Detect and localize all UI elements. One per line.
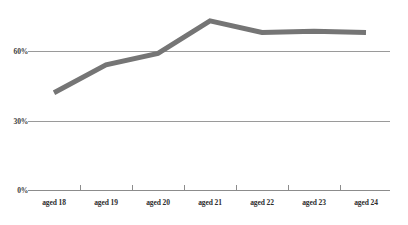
x-axis-tick-label-aged-22: aged 22 bbox=[236, 198, 288, 207]
y-axis-tick-label-30: 30% bbox=[4, 117, 28, 126]
line-chart: 60% 30% 0% aged 18 aged 19 aged 20 aged … bbox=[0, 0, 408, 225]
x-axis-tick-label-aged-23: aged 23 bbox=[288, 198, 340, 207]
gridlines bbox=[28, 51, 390, 121]
x-axis-tick-label-aged-21: aged 21 bbox=[184, 198, 236, 207]
x-axis-tick-label-aged-18: aged 18 bbox=[28, 198, 80, 207]
x-axis-tick-label-aged-19: aged 19 bbox=[80, 198, 132, 207]
x-axis bbox=[28, 185, 390, 190]
y-axis-tick-label-60: 60% bbox=[4, 47, 28, 56]
chart-plot-area bbox=[0, 0, 408, 225]
x-axis-tick-label-aged-24: aged 24 bbox=[340, 198, 392, 207]
data-series-line bbox=[54, 21, 366, 93]
x-axis-tick-label-aged-20: aged 20 bbox=[132, 198, 184, 207]
y-axis-tick-label-0: 0% bbox=[4, 186, 28, 195]
